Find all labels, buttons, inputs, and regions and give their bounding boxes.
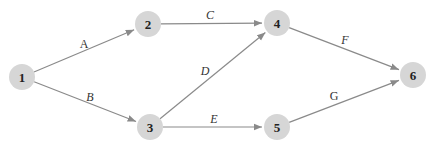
network-diagram: ABCDEFG 123456 — [0, 0, 437, 146]
node-5: 5 — [264, 114, 290, 140]
edge-label-d: D — [200, 64, 210, 78]
node-6: 6 — [400, 62, 426, 88]
edge-label-f: F — [340, 33, 349, 47]
node-label: 3 — [147, 120, 154, 135]
edge-c-arrow — [161, 23, 262, 24]
edge-label-e: E — [209, 112, 218, 126]
node-label: 5 — [274, 120, 281, 135]
node-label: 6 — [410, 68, 417, 83]
node-label: 1 — [19, 70, 26, 85]
node-3: 3 — [137, 114, 163, 140]
node-4: 4 — [264, 10, 290, 36]
edge-label-a: A — [80, 37, 89, 51]
node-2: 2 — [135, 11, 161, 37]
node-label: 2 — [145, 17, 152, 32]
edge-label-g: G — [330, 89, 339, 103]
edge-g-arrow — [289, 80, 399, 122]
edges: ABCDEFG — [34, 8, 399, 127]
edge-b-arrow — [34, 82, 136, 122]
node-label: 4 — [274, 16, 281, 31]
node-1: 1 — [9, 64, 35, 90]
edge-d-arrow — [160, 33, 265, 119]
edge-label-b: B — [86, 90, 94, 104]
edge-label-c: C — [206, 8, 215, 22]
